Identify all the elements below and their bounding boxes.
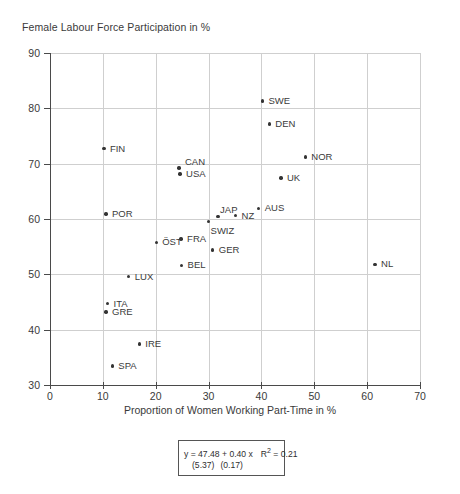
data-point: [104, 310, 107, 313]
gridline-horizontal: [50, 108, 420, 109]
y-axis-tick: [44, 219, 51, 220]
x-axis-tick: [420, 382, 421, 389]
gridline-vertical: [209, 53, 210, 385]
data-point-label: GER: [219, 245, 240, 254]
data-point-label: UK: [287, 173, 300, 182]
data-point-label: NOR: [311, 152, 332, 161]
y-axis-tick: [44, 274, 51, 275]
y-axis-tick-label: 50: [28, 269, 40, 279]
y-axis-title: Female Labour Force Participation in %: [22, 21, 210, 33]
data-point: [106, 302, 109, 305]
regression-annotation-box: y = 47.48 + 0.40 xR2 = 0.21 (5.37)(0.17): [178, 440, 285, 476]
x-axis-tick-label: 20: [136, 391, 176, 401]
data-point: [111, 364, 114, 367]
gridline-horizontal: [50, 330, 420, 331]
data-point: [127, 275, 130, 278]
gridline-vertical: [103, 53, 104, 385]
data-point: [207, 220, 210, 223]
data-point-label: NL: [381, 259, 393, 268]
data-point-label: AUS: [265, 203, 285, 212]
data-point: [155, 241, 158, 244]
x-axis-tick-label: 40: [241, 391, 281, 401]
r-squared-symbol: R: [253, 449, 267, 459]
x-axis-tick: [367, 382, 368, 389]
gridline-horizontal: [50, 164, 420, 165]
gridline-horizontal: [50, 219, 420, 220]
data-point: [104, 212, 107, 215]
data-point: [268, 122, 271, 125]
r-squared-value: = 0.21: [273, 449, 297, 459]
x-axis-tick-label: 0: [30, 391, 70, 401]
regression-equation-line: y = 47.48 + 0.40 xR2 = 0.21: [184, 445, 279, 460]
data-point: [373, 263, 376, 266]
data-point-label: USA: [186, 169, 206, 178]
data-point: [102, 147, 105, 150]
data-point-label: SWE: [268, 96, 290, 105]
data-point: [279, 176, 282, 179]
r-squared-exponent: 2: [267, 447, 271, 454]
data-point-label: JAP: [220, 205, 237, 214]
data-point-label: FIN: [110, 144, 125, 153]
scatter-chart-figure: Female Labour Force Participation in % S…: [0, 0, 460, 494]
data-point-label: GRE: [112, 307, 133, 316]
x-axis-tick: [261, 382, 262, 389]
data-point-label: CAN: [185, 157, 205, 166]
y-axis-tick-label: 30: [28, 380, 40, 390]
gridline-horizontal: [50, 53, 420, 54]
data-point-label: DEN: [275, 119, 295, 128]
data-point-label: POR: [112, 209, 133, 218]
data-point-label: SPA: [118, 361, 136, 370]
data-point: [257, 207, 260, 210]
y-axis-tick-label: 80: [28, 103, 40, 113]
data-point-label: BEL: [188, 260, 206, 269]
y-axis-tick-label: 90: [28, 48, 40, 58]
regression-equation: y = 47.48 + 0.40 x: [184, 449, 253, 459]
data-point-label: IRE: [145, 339, 161, 348]
gridline-vertical: [156, 53, 157, 385]
x-axis-tick: [103, 382, 104, 389]
y-axis-tick-label: 70: [28, 159, 40, 169]
data-point: [216, 215, 219, 218]
data-point-label: LUX: [135, 272, 153, 281]
data-point: [304, 155, 307, 158]
plot-area: SWEDENFINNORCANUSAUKAUSPORNZJAPSWIZFRAÖS…: [50, 53, 420, 385]
data-point-label: FRA: [187, 234, 206, 243]
se-intercept: (5.37): [192, 460, 214, 470]
gridline-vertical: [367, 53, 368, 385]
data-point: [178, 172, 181, 175]
x-axis-tick-label: 50: [294, 391, 334, 401]
y-axis-tick: [44, 330, 51, 331]
gridline-vertical: [314, 53, 315, 385]
x-axis-tick-label: 60: [347, 391, 387, 401]
gridline-horizontal: [50, 274, 420, 275]
x-axis-tick-label: 70: [400, 391, 440, 401]
data-point: [261, 99, 264, 102]
y-axis-tick: [44, 53, 51, 54]
y-axis-tick-label: 60: [28, 214, 40, 224]
data-point: [180, 264, 183, 267]
data-point: [177, 166, 180, 169]
y-axis-tick-label: 40: [28, 325, 40, 335]
data-point: [211, 248, 214, 251]
x-axis-tick: [314, 382, 315, 389]
x-axis-tick: [209, 382, 210, 389]
x-axis-title: Proportion of Women Working Part-Time in…: [0, 404, 460, 416]
x-axis-tick: [156, 382, 157, 389]
x-axis-tick: [50, 382, 51, 389]
x-axis-line: [50, 385, 421, 386]
x-axis-tick-label: 30: [189, 391, 229, 401]
data-point-label: SWIZ: [211, 226, 235, 235]
standard-errors-line: (5.37)(0.17): [184, 460, 279, 471]
se-slope: (0.17): [214, 460, 242, 470]
y-axis-tick: [44, 164, 51, 165]
data-point-label: NZ: [242, 211, 255, 220]
gridline-vertical: [420, 53, 421, 385]
data-point-label: ÖST: [162, 237, 182, 246]
data-point: [138, 342, 141, 345]
y-axis-tick: [44, 108, 51, 109]
x-axis-tick-label: 10: [83, 391, 123, 401]
